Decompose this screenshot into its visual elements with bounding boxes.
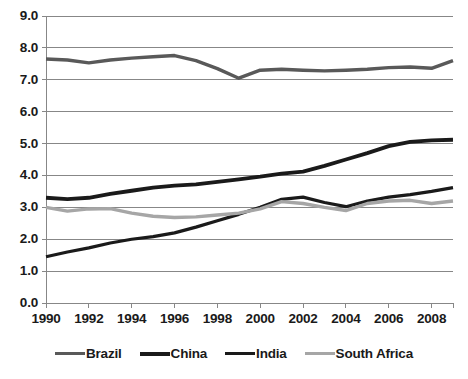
legend-item-south-africa[interactable]: South Africa bbox=[305, 346, 413, 361]
legend-swatch-south-africa bbox=[305, 352, 335, 355]
legend-swatch-india bbox=[225, 352, 255, 355]
y-axis-tick-label: 8.0 bbox=[2, 40, 38, 55]
y-axis-tick-label: 0.0 bbox=[2, 295, 38, 310]
x-axis-tick-label: 2004 bbox=[323, 311, 369, 326]
chart-legend: Brazil China India South Africa bbox=[0, 346, 468, 361]
x-axis-tick-label: 1994 bbox=[109, 311, 155, 326]
y-axis-tick-label: 5.0 bbox=[2, 136, 38, 151]
legend-label-china: China bbox=[171, 346, 208, 361]
y-axis-tick-label: 6.0 bbox=[2, 104, 38, 119]
series-line-south-africa bbox=[46, 200, 453, 217]
legend-label-brazil: Brazil bbox=[86, 346, 122, 361]
x-axis-tick-label: 2000 bbox=[237, 311, 283, 326]
x-axis-tick-label: 2006 bbox=[366, 311, 412, 326]
legend-label-south-africa: South Africa bbox=[336, 346, 413, 361]
series-line-india bbox=[46, 188, 453, 257]
y-axis-tick-label: 4.0 bbox=[2, 167, 38, 182]
legend-swatch-china bbox=[140, 352, 170, 356]
legend-item-brazil[interactable]: Brazil bbox=[55, 346, 122, 361]
x-axis-tick-label: 1992 bbox=[66, 311, 112, 326]
x-axis-tick-label: 1998 bbox=[194, 311, 240, 326]
y-axis-tick-label: 3.0 bbox=[2, 199, 38, 214]
legend-label-india: India bbox=[256, 346, 287, 361]
x-axis-tick-label: 1990 bbox=[23, 311, 69, 326]
series-line-brazil bbox=[46, 56, 453, 79]
line-chart: Brazil China India South Africa 0.01.02.… bbox=[0, 0, 468, 379]
x-axis-tick-label: 1996 bbox=[152, 311, 198, 326]
x-axis-tick-label: 2008 bbox=[409, 311, 455, 326]
legend-item-india[interactable]: India bbox=[225, 346, 287, 361]
y-axis-tick-label: 7.0 bbox=[2, 72, 38, 87]
y-axis-tick-label: 2.0 bbox=[2, 231, 38, 246]
series-line-china bbox=[46, 140, 453, 199]
x-axis-tick-label: 2002 bbox=[280, 311, 326, 326]
y-axis-tick-label: 9.0 bbox=[2, 8, 38, 23]
legend-swatch-brazil bbox=[55, 352, 85, 355]
y-axis-tick-label: 1.0 bbox=[2, 263, 38, 278]
legend-item-china[interactable]: China bbox=[140, 346, 208, 361]
